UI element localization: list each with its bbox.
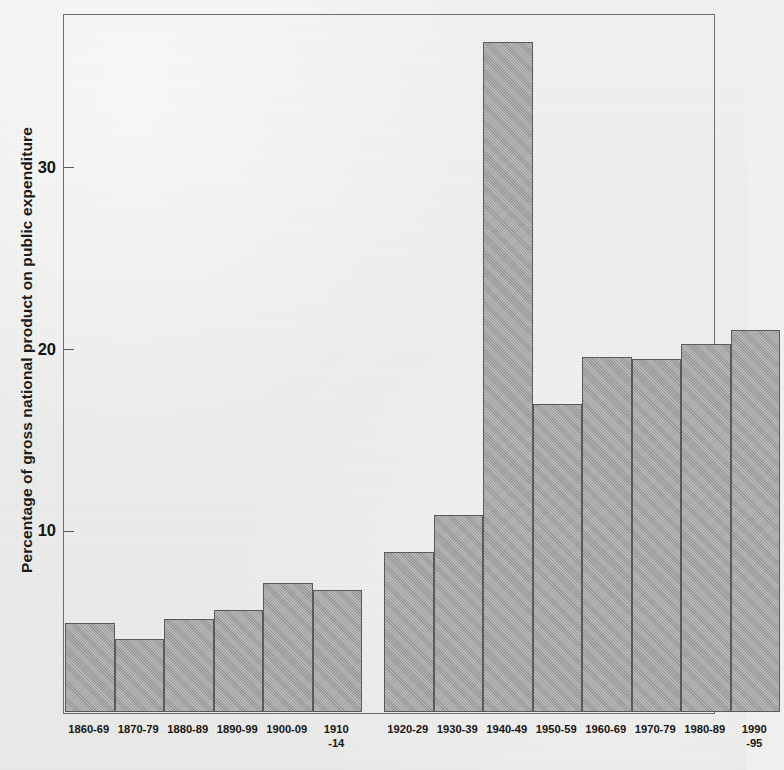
x-tick-label-line1: 1900-09: [266, 723, 307, 735]
bar: [681, 344, 731, 712]
y-tick-label-10: 10: [22, 521, 56, 540]
bar: [313, 590, 363, 712]
x-tick-label-line2: -14: [306, 736, 368, 750]
bar: [731, 330, 781, 712]
x-tick-label: 1990-95: [724, 722, 784, 750]
x-tick-label-line1: 1980-89: [684, 723, 725, 735]
bar: [533, 404, 583, 712]
x-tick-label-line1: 1870-79: [118, 723, 159, 735]
x-tick-label-line1: 1940-49: [486, 723, 527, 735]
bar: [214, 610, 264, 712]
bar-series: [64, 15, 714, 713]
y-tick-label-20: 20: [22, 340, 56, 359]
bar: [164, 619, 214, 712]
bar: [384, 552, 434, 712]
x-tick-label-line1: 1960-69: [585, 723, 626, 735]
x-tick-label-line1: 1990: [742, 723, 767, 735]
x-tick-label: 1910-14: [306, 722, 368, 750]
x-tick-label-line1: 1860-69: [68, 723, 109, 735]
bar: [483, 42, 533, 712]
bar: [632, 359, 682, 712]
bar: [434, 515, 484, 712]
bar: [582, 357, 632, 712]
bar: [65, 623, 115, 712]
x-tick-label-line1: 1910: [324, 723, 349, 735]
x-tick-label-line1: 1920-29: [387, 723, 428, 735]
bar: [263, 583, 313, 712]
x-tick-label-line1: 1970-79: [635, 723, 676, 735]
x-tick-label-line2: -95: [724, 736, 784, 750]
x-tick-label-line1: 1890-99: [217, 723, 258, 735]
y-tick-label-30: 30: [22, 158, 56, 177]
bar: [115, 639, 165, 712]
x-tick-label-line1: 1930-39: [437, 723, 478, 735]
x-tick-label-line1: 1950-59: [536, 723, 577, 735]
plot-area: [63, 14, 715, 714]
x-tick-label-line1: 1880-89: [167, 723, 208, 735]
